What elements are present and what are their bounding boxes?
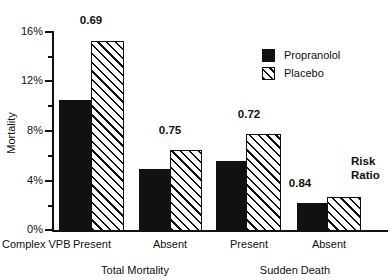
bar-propranolol-total-absent [139,169,170,231]
group-label-sudden-death: Sudden Death [250,264,340,276]
risk-ratio-label-sudden-present: 0.72 [214,108,284,120]
bar-chart-figure: 16% 12% 8% 4% 0% Mortality 0.69 0.75 0.7… [0,0,392,280]
legend-label-propranolol: Propranolol [284,49,340,62]
bar-propranolol-total-present [59,100,91,231]
y-tick-label-0-wrap: 0% [0,224,43,235]
y-tick-4 [45,180,53,182]
y-tick-16 [45,31,53,33]
category-label-sudden-absent: Absent [294,238,364,250]
risk-ratio-caption-line1: Risk [351,154,380,168]
y-tick-8 [45,130,53,132]
category-label-total-present: Present [57,238,127,250]
bar-placebo-sudden-absent [327,197,361,231]
category-label-total-absent: Absent [135,238,205,250]
y-tick-minor-10 [48,105,53,107]
group-label-total-mortality: Total Mortality [90,264,180,276]
y-tick-0 [45,229,53,231]
y-tick-label-0: 0% [0,224,43,235]
risk-ratio-label-sudden-absent: 0.84 [265,177,335,189]
y-tick-label-12-wrap: 12% [0,75,43,86]
risk-ratio-caption-line2: Ratio [351,168,380,182]
risk-ratio-caption: Risk Ratio [351,154,380,182]
category-label-sudden-present: Present [214,238,284,250]
risk-ratio-label-total-present: 0.69 [56,14,126,26]
legend-label-placebo: Placebo [284,67,324,80]
legend-swatch-propranolol-icon [262,49,275,62]
legend-swatch-placebo-icon [262,67,275,80]
y-tick-label-4: 4% [0,175,43,186]
y-tick-minor-2 [48,205,53,207]
bar-placebo-total-absent [170,150,202,231]
bar-placebo-total-present [91,41,124,231]
bar-propranolol-sudden-present [216,161,246,231]
y-tick-12 [45,80,53,82]
y-tick-label-16-wrap: 16% [0,26,43,37]
risk-ratio-label-total-absent: 0.75 [135,124,205,136]
y-tick-minor-6 [48,155,53,157]
y-tick-minor-14 [48,56,53,58]
y-tick-label-4-wrap: 4% [0,175,43,186]
y-tick-label-16: 16% [0,26,43,37]
bar-propranolol-sudden-absent [297,203,327,231]
y-axis-title: Mortality [5,95,17,171]
y-tick-label-12: 12% [0,75,43,86]
